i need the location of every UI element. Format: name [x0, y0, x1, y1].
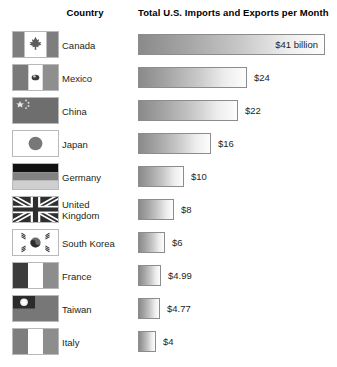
country-label: South Korea: [62, 228, 136, 258]
chart-row: Japan$16: [0, 129, 337, 159]
value-bar: [138, 265, 161, 286]
value-label: $4.77: [167, 298, 191, 319]
value-label: $10: [191, 166, 207, 187]
flag-mexico-icon: [12, 64, 59, 91]
country-label: Mexico: [62, 63, 136, 93]
value-bar: [138, 199, 174, 220]
chart-row: United Kingdom$8: [0, 195, 337, 225]
value-bar: [138, 232, 165, 253]
flag-japan-icon: [12, 130, 59, 157]
country-label: United Kingdom: [62, 195, 136, 225]
flag-united-kingdom-icon: [12, 196, 59, 223]
value-label: $4: [163, 331, 174, 352]
chart-row: Canada$41 billion: [0, 30, 337, 60]
chart-row: Taiwan$4.77: [0, 294, 337, 324]
value-label: $16: [218, 133, 234, 154]
value-label: $8: [181, 199, 192, 220]
chart-row: China$22: [0, 96, 337, 126]
chart-row: Germany$10: [0, 162, 337, 192]
value-label: $41 billion: [138, 34, 318, 55]
chart-row: South Korea$6: [0, 228, 337, 258]
chart-row: Mexico$24: [0, 63, 337, 93]
country-label: Canada: [62, 30, 136, 60]
country-label-text: United Kingdom: [62, 199, 100, 222]
country-label: Japan: [62, 129, 136, 159]
flag-italy-icon: [12, 328, 59, 355]
value-bar: [138, 100, 238, 121]
flag-south-korea-icon: [12, 229, 59, 256]
value-label: $24: [254, 67, 270, 88]
flag-france-icon: [12, 262, 59, 289]
column-header-value: Total U.S. Imports and Exports per Month: [138, 7, 337, 18]
country-label: Italy: [62, 327, 136, 357]
country-label: China: [62, 96, 136, 126]
flag-china-icon: [12, 97, 59, 124]
column-header-country: Country: [45, 7, 125, 18]
country-label: Germany: [62, 162, 136, 192]
value-bar: [138, 166, 184, 187]
flag-canada-icon: [12, 31, 59, 58]
value-label: $6: [172, 232, 183, 253]
country-label: Taiwan: [62, 294, 136, 324]
value-bar: [138, 298, 160, 319]
flag-taiwan-icon: [12, 295, 59, 322]
value-label: $22: [245, 100, 261, 121]
value-bar: [138, 67, 247, 88]
value-label: $4.99: [168, 265, 192, 286]
chart-row: France$4.99: [0, 261, 337, 291]
chart-row: Italy$4: [0, 327, 337, 357]
value-bar: [138, 331, 156, 352]
flag-germany-icon: [12, 163, 59, 190]
value-bar: [138, 133, 211, 154]
country-trade-bar-chart: Country Total U.S. Imports and Exports p…: [0, 0, 337, 367]
country-label: France: [62, 261, 136, 291]
